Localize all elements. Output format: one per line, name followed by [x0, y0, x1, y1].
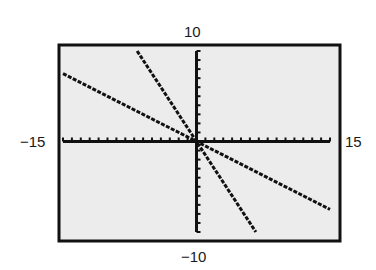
graph-screen — [0, 0, 376, 270]
